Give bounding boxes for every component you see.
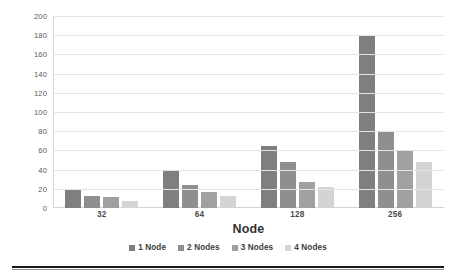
legend-label: 2 Nodes bbox=[187, 243, 220, 252]
legend-swatch-icon bbox=[232, 245, 238, 251]
legend-label: 3 Nodes bbox=[241, 243, 274, 252]
bar[interactable] bbox=[261, 146, 277, 208]
bar[interactable] bbox=[397, 150, 413, 208]
gridline bbox=[53, 16, 444, 17]
gridline bbox=[53, 93, 444, 94]
y-axis-tick-label: 140 bbox=[34, 69, 47, 78]
gridline bbox=[53, 112, 444, 113]
legend-swatch-icon bbox=[129, 245, 135, 251]
y-axis-tick-label: 120 bbox=[34, 88, 47, 97]
y-axis-tick-label: 100 bbox=[34, 108, 47, 117]
y-axis-tick-label: 60 bbox=[38, 146, 47, 155]
bar[interactable] bbox=[65, 189, 81, 208]
bar[interactable] bbox=[84, 196, 100, 208]
gridline bbox=[53, 35, 444, 36]
gridline bbox=[53, 54, 444, 55]
grid-area bbox=[53, 16, 444, 208]
gridline bbox=[53, 131, 444, 132]
legend-item[interactable]: 2 Nodes bbox=[178, 243, 220, 252]
chart-legend: 1 Node2 Nodes3 Nodes4 Nodes bbox=[0, 243, 456, 252]
gridline bbox=[53, 150, 444, 151]
bottom-divider-secondary bbox=[12, 269, 444, 270]
bar[interactable] bbox=[220, 196, 236, 208]
legend-label: 4 Nodes bbox=[294, 243, 327, 252]
chart-figure: Simulation Time (s) 02040608010012014016… bbox=[0, 0, 456, 276]
bar[interactable] bbox=[122, 201, 138, 208]
legend-item[interactable]: 4 Nodes bbox=[285, 243, 327, 252]
legend-swatch-icon bbox=[285, 245, 291, 251]
x-axis-category-label: 128 bbox=[249, 210, 347, 219]
x-axis-category-label: 64 bbox=[151, 210, 249, 219]
y-axis-tick-labels: 020406080100120140160180200 bbox=[24, 16, 50, 208]
x-axis-title: Node bbox=[53, 222, 444, 236]
gridline bbox=[53, 170, 444, 171]
y-axis-tick-label: 40 bbox=[38, 165, 47, 174]
bar[interactable] bbox=[201, 192, 217, 208]
y-axis-tick-label: 180 bbox=[34, 31, 47, 40]
bar[interactable] bbox=[318, 187, 334, 208]
y-axis-tick-label: 0 bbox=[43, 204, 47, 213]
y-axis-tick-label: 20 bbox=[38, 184, 47, 193]
gridline bbox=[53, 189, 444, 190]
x-axis-category-label: 256 bbox=[346, 210, 444, 219]
y-axis-tick-label: 200 bbox=[34, 12, 47, 21]
bottom-divider bbox=[12, 266, 444, 268]
legend-item[interactable]: 1 Node bbox=[129, 243, 166, 252]
legend-swatch-icon bbox=[178, 245, 184, 251]
x-axis-category-label: 32 bbox=[53, 210, 151, 219]
legend-item[interactable]: 3 Nodes bbox=[232, 243, 274, 252]
bar[interactable] bbox=[299, 182, 315, 208]
bar[interactable] bbox=[359, 35, 375, 208]
plot-area: 020406080100120140160180200 bbox=[24, 16, 444, 208]
y-axis-tick-label: 160 bbox=[34, 50, 47, 59]
gridline bbox=[53, 74, 444, 75]
legend-label: 1 Node bbox=[138, 243, 166, 252]
y-axis-tick-label: 80 bbox=[38, 127, 47, 136]
x-axis-category-labels: 3264128256 bbox=[53, 210, 444, 219]
bar[interactable] bbox=[103, 197, 119, 208]
